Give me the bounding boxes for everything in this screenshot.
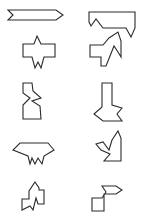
shape-6 [94, 83, 122, 121]
shape-8 [96, 131, 121, 161]
figure-canvas [0, 0, 148, 224]
shape-2 [89, 12, 135, 37]
shape-5 [23, 83, 41, 119]
shape-3 [23, 36, 55, 68]
shape-10 [92, 186, 122, 211]
shape-7 [13, 143, 54, 164]
shape-1 [8, 10, 63, 20]
shape-9 [22, 182, 44, 210]
shape-4 [90, 32, 121, 66]
shapes-svg [0, 0, 148, 224]
